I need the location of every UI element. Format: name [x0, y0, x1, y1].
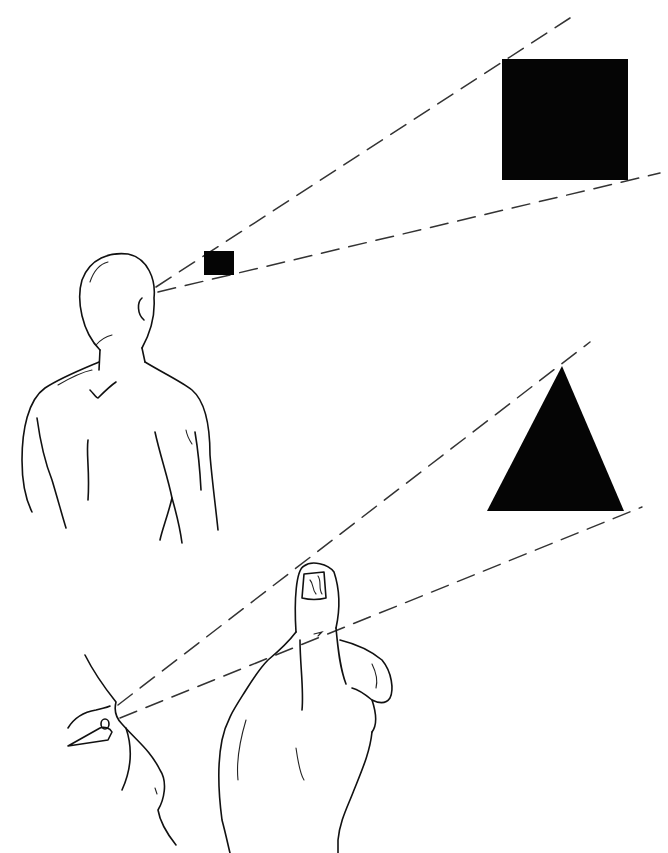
- thumb-hand: [219, 563, 392, 853]
- near-small-square: [204, 251, 234, 275]
- man-back-figure: [22, 254, 218, 543]
- visual-angle-illustration: [0, 0, 668, 853]
- far-large-square: [502, 59, 628, 180]
- far-triangle: [487, 366, 624, 511]
- eye-profile: [68, 655, 176, 845]
